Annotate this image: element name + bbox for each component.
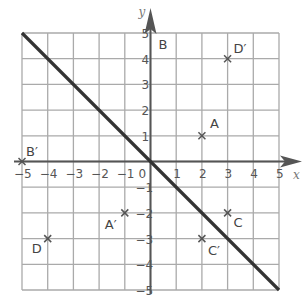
point-label: B xyxy=(159,37,168,52)
x-tick-label: 1 xyxy=(173,167,181,181)
x-tick-label: 2 xyxy=(199,167,207,181)
y-tick-label: −3 xyxy=(136,233,154,247)
x-tick-label: −5 xyxy=(14,167,32,181)
y-tick-label: 1 xyxy=(142,130,150,144)
x-tick-label: 3 xyxy=(225,167,233,181)
coordinate-plane: xy −5−4−3−2−1012345−5−4−3−2−112345 AA′BB… xyxy=(0,0,307,306)
point-label: A xyxy=(210,116,219,131)
y-tick-label: −4 xyxy=(136,258,154,272)
y-tick-label: −5 xyxy=(136,284,154,298)
point-label: C′ xyxy=(208,243,220,258)
point-label: D′ xyxy=(234,41,247,56)
point-label: A′ xyxy=(105,217,117,232)
x-tick-label: −1 xyxy=(117,167,135,181)
y-tick-label: 4 xyxy=(142,53,150,67)
x-tick-label: 0 xyxy=(139,167,147,181)
y-axis-label: y xyxy=(138,5,146,19)
point-label: C xyxy=(234,215,243,230)
x-tick-label: −2 xyxy=(91,167,109,181)
x-tick-label: 4 xyxy=(250,167,258,181)
y-tick-label: 5 xyxy=(142,27,150,41)
y-tick-label: −2 xyxy=(136,207,154,221)
y-tick-label: −1 xyxy=(136,181,154,195)
x-axis-label: x xyxy=(293,168,300,182)
x-tick-label: −3 xyxy=(65,167,83,181)
x-tick-label: −4 xyxy=(40,167,58,181)
point-label: B′ xyxy=(26,144,38,159)
y-tick-label: 3 xyxy=(142,78,150,92)
point-label: D xyxy=(32,241,42,256)
x-tick-label: 5 xyxy=(276,167,284,181)
y-tick-label: 2 xyxy=(142,104,150,118)
